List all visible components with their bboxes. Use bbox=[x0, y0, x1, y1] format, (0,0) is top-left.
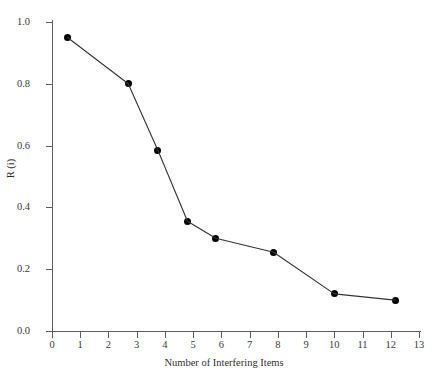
x-tick-label: 7 bbox=[240, 340, 260, 351]
x-tick-mark bbox=[80, 332, 81, 338]
data-point bbox=[125, 80, 132, 87]
data-point bbox=[184, 218, 191, 225]
data-point bbox=[212, 235, 219, 242]
data-point bbox=[154, 147, 161, 154]
x-tick-label: 3 bbox=[127, 340, 147, 351]
y-axis-line bbox=[52, 20, 53, 333]
y-tick-label: 0.0 bbox=[17, 326, 30, 337]
x-tick-label: 13 bbox=[409, 340, 429, 351]
y-tick-label: 0.8 bbox=[17, 79, 30, 90]
x-tick-mark bbox=[108, 332, 109, 338]
x-tick-label: 12 bbox=[381, 340, 401, 351]
x-tick-mark bbox=[165, 332, 166, 338]
x-tick-label: 0 bbox=[42, 340, 62, 351]
chart-figure: 0.00.20.40.60.81.0 012345678910111213 Nu… bbox=[0, 0, 448, 379]
y-tick-mark bbox=[46, 22, 52, 23]
x-tick-label: 6 bbox=[211, 340, 231, 351]
x-tick-mark bbox=[137, 332, 138, 338]
y-axis-title: R (i) bbox=[5, 139, 16, 199]
data-point bbox=[331, 290, 338, 297]
y-tick-label: 0.2 bbox=[17, 264, 30, 275]
y-tick-mark bbox=[46, 269, 52, 270]
x-tick-mark bbox=[363, 332, 364, 338]
y-tick-label: 1.0 bbox=[17, 17, 30, 28]
data-point bbox=[64, 34, 71, 41]
x-tick-label: 11 bbox=[353, 340, 373, 351]
x-tick-mark bbox=[52, 332, 53, 338]
x-tick-label: 8 bbox=[268, 340, 288, 351]
y-tick-mark bbox=[46, 146, 52, 147]
y-tick-label: 0.6 bbox=[17, 141, 30, 152]
data-point bbox=[270, 249, 277, 256]
x-tick-label: 5 bbox=[183, 340, 203, 351]
x-axis-title: Number of Interfering Items bbox=[0, 357, 448, 368]
y-tick-mark bbox=[46, 207, 52, 208]
x-tick-label: 1 bbox=[70, 340, 90, 351]
x-tick-mark bbox=[278, 332, 279, 338]
x-tick-mark bbox=[250, 332, 251, 338]
x-tick-mark bbox=[221, 332, 222, 338]
x-tick-label: 4 bbox=[155, 340, 175, 351]
x-axis-line bbox=[50, 331, 421, 332]
data-point bbox=[392, 297, 399, 304]
x-tick-label: 10 bbox=[324, 340, 344, 351]
x-tick-label: 2 bbox=[98, 340, 118, 351]
x-tick-label: 9 bbox=[296, 340, 316, 351]
series-line bbox=[0, 0, 448, 379]
y-tick-label: 0.4 bbox=[17, 202, 30, 213]
x-tick-mark bbox=[419, 332, 420, 338]
x-tick-mark bbox=[306, 332, 307, 338]
x-tick-mark bbox=[193, 332, 194, 338]
x-tick-mark bbox=[334, 332, 335, 338]
x-tick-mark bbox=[391, 332, 392, 338]
y-tick-mark bbox=[46, 84, 52, 85]
